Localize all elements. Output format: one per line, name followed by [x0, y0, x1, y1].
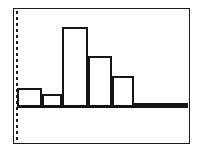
plot-area: [17, 8, 188, 107]
histogram-bar: [112, 76, 134, 107]
histogram-figure: [0, 0, 200, 152]
histogram-bar: [62, 27, 88, 107]
x-axis-baseline: [17, 105, 188, 108]
histogram-bar: [88, 56, 112, 107]
